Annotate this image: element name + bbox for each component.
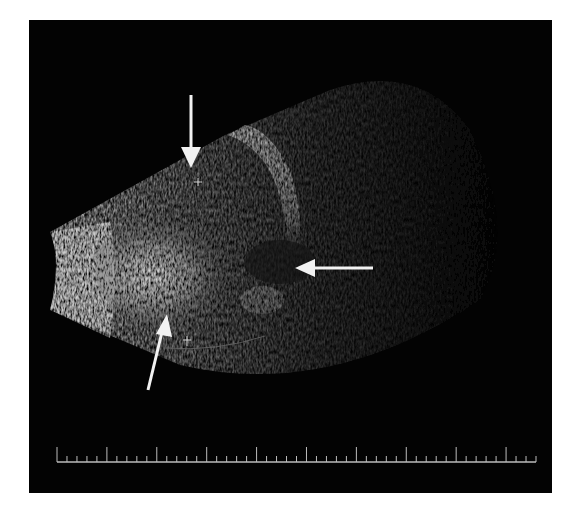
ultrasound-image	[29, 20, 552, 493]
scan-sector	[50, 81, 498, 374]
depth-scale-bar	[57, 447, 536, 462]
ultrasound-frame	[29, 20, 552, 493]
